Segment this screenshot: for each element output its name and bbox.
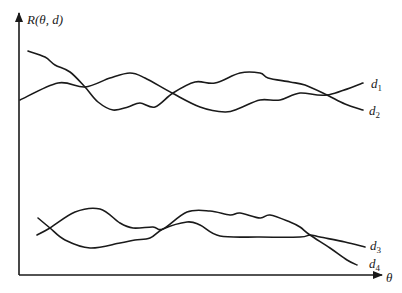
x-axis-label: θ (386, 270, 393, 285)
curve-d4 (37, 208, 357, 265)
label-d1: d1 (371, 76, 382, 93)
label-d2: d2 (369, 103, 380, 120)
label-d4: d4 (369, 256, 381, 273)
y-axis-label: R(θ, d) (26, 12, 63, 27)
curve-d2 (28, 51, 363, 110)
risk-function-plot: R(θ, d) θ d1 d2 d3 d4 (0, 0, 402, 293)
curve-d3 (38, 218, 365, 248)
label-d3: d3 (370, 238, 382, 255)
curve-d1 (20, 73, 363, 112)
